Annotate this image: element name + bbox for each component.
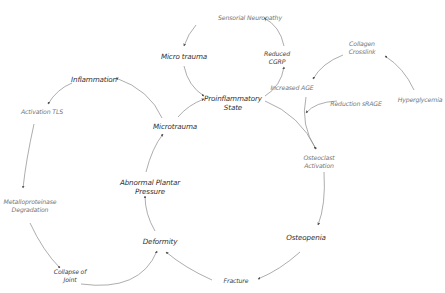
node-label: Collapse of [54, 268, 87, 276]
arrow-osteoclast-activation-to-osteopenia [318, 172, 324, 225]
node-label: Collagen [349, 40, 376, 48]
node-collapse-of-joint: Collapse ofJoint [54, 268, 87, 284]
arrow-metalloproteinase-degradation-to-collapse-of-joint [30, 223, 60, 268]
node-label: Osteopenia [286, 233, 325, 242]
node-label: Pressure [120, 187, 180, 196]
node-label: Microtrauma [153, 122, 197, 131]
arrow-microtrauma-to-inflammation [116, 78, 162, 118]
node-abnormal-plantar-pressure: Abnormal PlantarPressure [120, 178, 180, 196]
node-label: Crosslink [349, 48, 376, 56]
arrow-activation-tls-to-metalloproteinase-degradation [23, 124, 34, 188]
edge-group [23, 18, 414, 285]
node-label: Joint [54, 276, 87, 284]
arrow-collapse-of-joint-to-deformity [81, 251, 157, 285]
node-label: Degradation [4, 206, 57, 214]
node-label: CGRP [264, 58, 290, 66]
node-osteoclast-activation: OsteoclastActivation [303, 154, 334, 170]
node-label: Metalloproteinase [4, 198, 57, 206]
diagram-canvas: Sensorial NeuropathyMicro traumaReducedC… [0, 0, 445, 293]
arrow-reduced-cgrp-to-sensorial-neuropathy [264, 18, 284, 46]
arrow-osteopenia-to-fracture [258, 252, 300, 279]
arrow-proinflammatory-state-to-osteoclast-activation [265, 101, 316, 149]
node-label: Activation [303, 162, 334, 170]
node-sensorial-neuropathy: Sensorial Neuropathy [218, 14, 282, 22]
node-collagen-crosslink: CollagenCrosslink [349, 40, 376, 56]
node-inflammation: Inflammation [71, 75, 117, 84]
arrow-hyperglycemia-to-collagen-crosslink [385, 56, 414, 90]
arrow-deformity-to-abnormal-plantar-pressure [145, 196, 155, 231]
node-label: Hyperglycemia [398, 96, 443, 104]
node-reduced-cgrp: ReducedCGRP [264, 50, 290, 66]
arrow-increased-age-to-osteoclast-activation [304, 97, 316, 149]
node-micro-trauma-top: Micro trauma [161, 52, 207, 61]
node-fracture: Fracture [224, 277, 249, 285]
node-label: State [204, 103, 262, 112]
node-osteopenia: Osteopenia [286, 233, 325, 242]
node-hyperglycemia: Hyperglycemia [398, 96, 443, 104]
node-label: Osteoclast [303, 154, 334, 162]
arrow-sensorial-neuropathy-to-micro-trauma-top [184, 25, 196, 46]
node-label: Increased AGE [270, 84, 313, 92]
node-increased-age: Increased AGE [270, 84, 313, 92]
node-microtrauma: Microtrauma [153, 122, 197, 131]
node-label: Activation TLS [21, 108, 63, 116]
node-label: Proinflammatory [204, 94, 262, 103]
node-activation-tls: Activation TLS [21, 108, 63, 116]
arrow-collagen-crosslink-to-increased-age [313, 55, 343, 79]
node-label: Deformity [143, 237, 178, 246]
node-label: Reduction sRAGE [330, 100, 381, 108]
node-label: Inflammation [71, 75, 117, 84]
arrow-micro-trauma-top-to-proinflammatory-state [184, 66, 204, 96]
node-metalloproteinase-degradation: MetalloproteinaseDegradation [4, 198, 57, 214]
node-label: Reduced [264, 50, 290, 58]
node-label: Abnormal Plantar [120, 178, 180, 187]
arrow-microtrauma-to-proinflammatory-state [178, 99, 204, 117]
node-proinflammatory-state: ProinflammatoryState [204, 94, 262, 112]
arrow-fracture-to-deformity [166, 252, 212, 280]
node-reduction-srage: Reduction sRAGE [330, 100, 381, 108]
node-label: Sensorial Neuropathy [218, 14, 282, 22]
arrow-inflammation-to-activation-tls [48, 83, 72, 104]
node-label: Fracture [224, 277, 249, 285]
arrow-abnormal-plantar-pressure-to-microtrauma [146, 134, 163, 172]
edges-layer [0, 0, 445, 293]
node-deformity: Deformity [143, 237, 178, 246]
node-label: Micro trauma [161, 52, 207, 61]
